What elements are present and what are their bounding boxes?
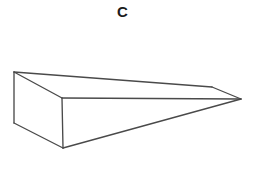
figure-container: C bbox=[0, 0, 255, 177]
wedge-diagram bbox=[0, 0, 255, 177]
